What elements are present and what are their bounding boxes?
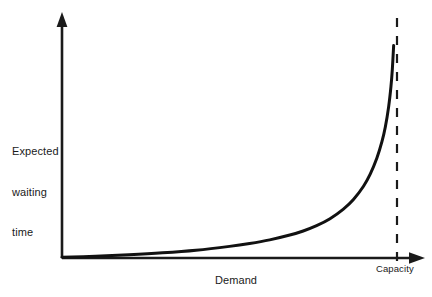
waiting-time-curve: [62, 46, 394, 258]
y-axis-arrowhead: [57, 12, 68, 27]
y-axis-label-line-2: waiting: [12, 186, 59, 200]
chart-plot-area: [0, 0, 432, 297]
capacity-annotation-label: Capacity: [376, 262, 414, 276]
y-axis-label-line-1: Expected: [12, 145, 59, 159]
y-axis-label-line-3: time: [12, 226, 59, 240]
x-axis-label: Demand: [196, 274, 276, 288]
y-axis-label: Expected waiting time: [12, 118, 59, 267]
queueing-waiting-time-chart: Expected waiting time Demand Capacity: [0, 0, 432, 297]
